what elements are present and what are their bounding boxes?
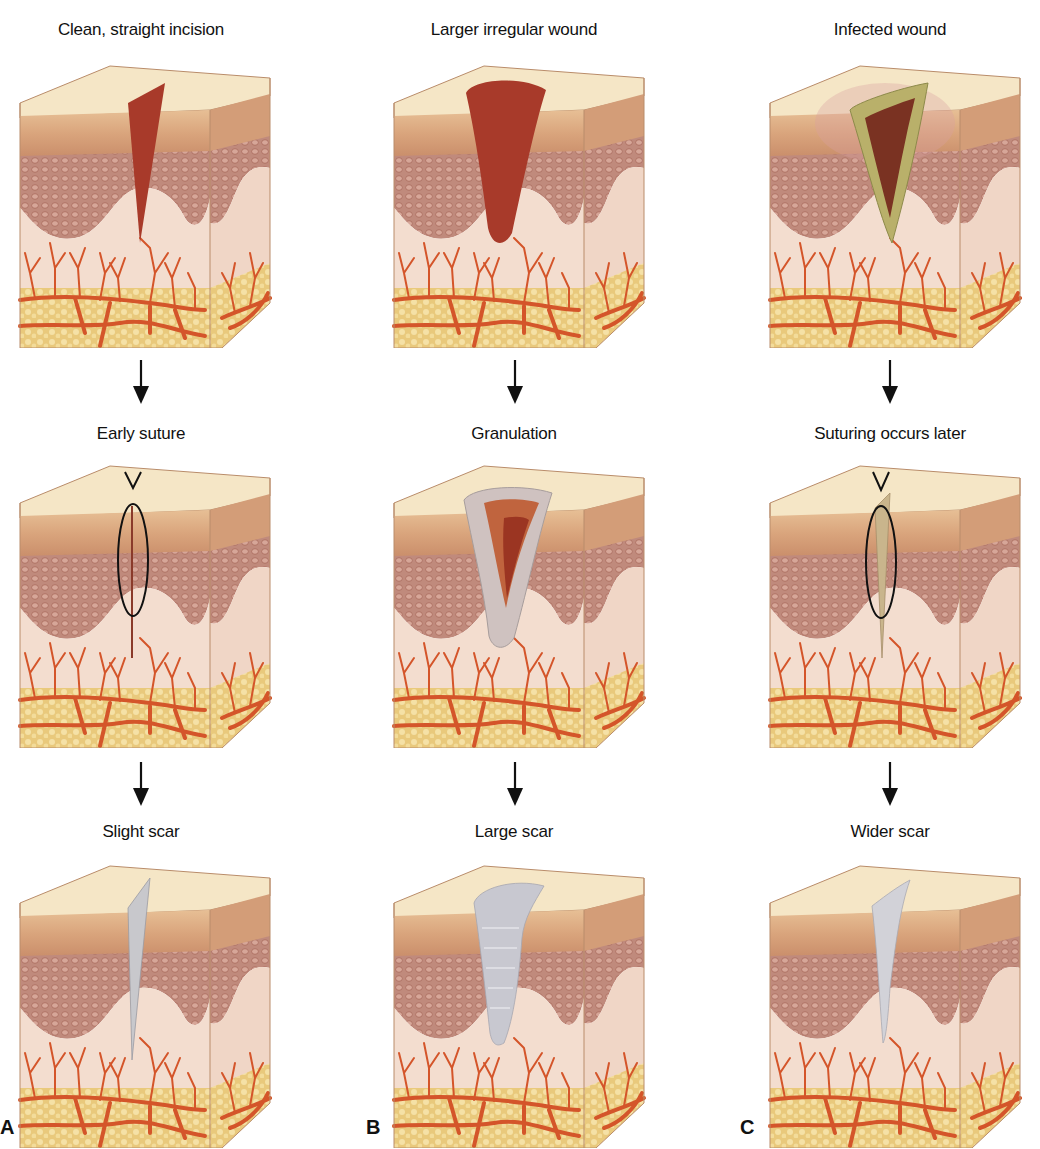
- stage-label-c2: Suturing occurs later: [814, 424, 966, 444]
- panel-letter-c: C: [740, 1116, 754, 1139]
- stage-label-a3: Slight scar: [102, 822, 179, 842]
- stage-label-a1: Clean, straight incision: [58, 20, 224, 40]
- arrow-down-icon: [880, 762, 900, 806]
- skin-diagram-early-suture: [0, 448, 280, 748]
- skin-diagram-late-suture: [750, 448, 1030, 748]
- panel-letter-a: A: [0, 1116, 14, 1139]
- arrow-down-icon: [505, 762, 525, 806]
- stage-label-c3: Wider scar: [850, 822, 929, 842]
- arrow-down-icon: [880, 360, 900, 404]
- skin-diagram-large-scar: [374, 848, 654, 1148]
- skin-diagram-wider-scar: [750, 848, 1030, 1148]
- skin-diagram-clean-incision: [0, 48, 280, 348]
- stage-label-b2: Granulation: [471, 424, 557, 444]
- arrow-down-icon: [131, 360, 151, 404]
- arrow-down-icon: [505, 360, 525, 404]
- panel-letter-b: B: [366, 1116, 380, 1139]
- skin-diagram-granulation: [374, 448, 654, 748]
- skin-diagram-slight-scar: [0, 848, 280, 1148]
- stage-label-c1: Infected wound: [834, 20, 947, 40]
- stage-label-a2: Early suture: [97, 424, 185, 444]
- stage-label-b3: Large scar: [475, 822, 553, 842]
- skin-diagram-large-wound: [374, 48, 654, 348]
- stage-label-b1: Larger irregular wound: [431, 20, 598, 40]
- arrow-down-icon: [131, 762, 151, 806]
- skin-diagram-infected-wound: [750, 48, 1030, 348]
